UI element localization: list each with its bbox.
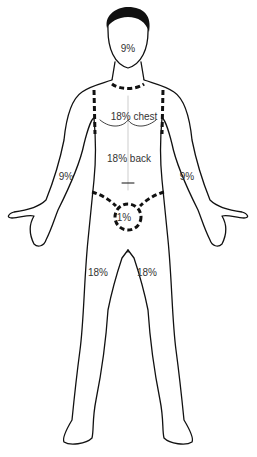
rule-of-nines-diagram: 9% 18% chest 18% back 9% 9% 1% 18% 18%	[0, 0, 257, 457]
back-label: 18% back	[107, 153, 151, 164]
right-leg-label: 18%	[88, 267, 108, 278]
body-outline	[0, 0, 257, 457]
left-arm-label: 9%	[180, 171, 194, 182]
left-leg-label: 18%	[137, 267, 157, 278]
chest-label: 18% chest	[111, 111, 158, 122]
head-label: 9%	[121, 43, 135, 54]
genitals-label: 1%	[117, 212, 131, 223]
right-arm-label: 9%	[59, 171, 73, 182]
